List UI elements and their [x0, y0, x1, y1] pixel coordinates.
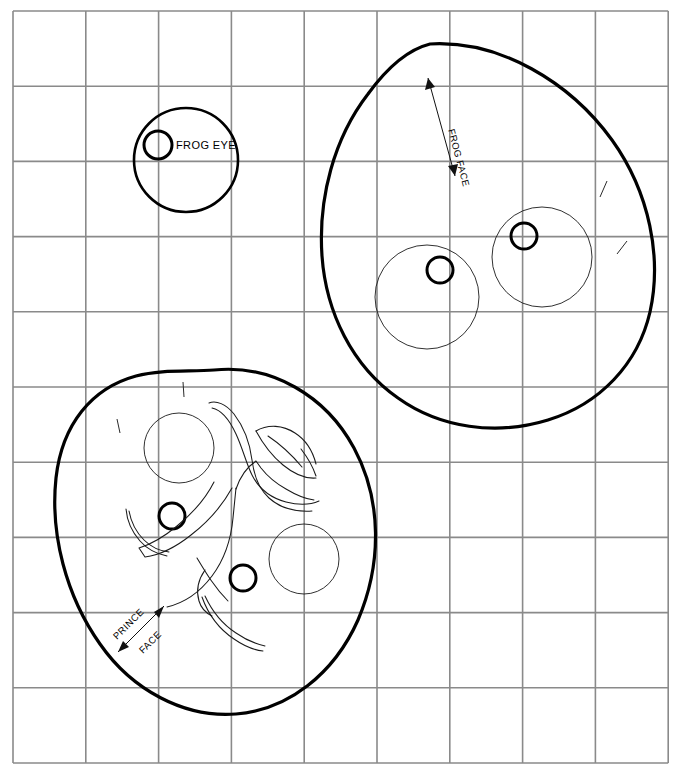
frog-eye-label: FROG EYE [176, 139, 236, 151]
technical-drawing-svg: FROG EYE FROG FACE [0, 0, 689, 777]
drawing-canvas: FROG EYE FROG FACE [0, 0, 689, 777]
page-background [0, 0, 689, 777]
